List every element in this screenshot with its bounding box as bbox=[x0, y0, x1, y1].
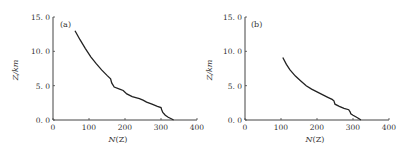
y-axis-label-a: Z/km bbox=[11, 59, 20, 81]
chart-a-axes: 01002003004000. 05. 010. 015. 0 bbox=[31, 13, 204, 132]
x-axis-label-a: N(Z) bbox=[108, 135, 128, 144]
chart-b-svg: 01002003004000. 05. 010. 015. 0 (b) Z/km… bbox=[204, 0, 408, 153]
y-tick-label: 0. 0 bbox=[36, 116, 51, 125]
x-tick-label: 400 bbox=[382, 123, 397, 132]
y-tick-label: 5. 0 bbox=[228, 82, 243, 91]
data-line-a bbox=[75, 31, 174, 120]
panel-label-b: (b) bbox=[251, 20, 262, 29]
x-tick-label: 300 bbox=[346, 123, 361, 132]
chart-b-axes: 01002003004000. 05. 010. 015. 0 bbox=[223, 13, 396, 132]
y-axis-label-b: Z/km bbox=[205, 59, 214, 81]
x-tick-label: 200 bbox=[118, 123, 133, 132]
x-tick-label: 200 bbox=[310, 123, 325, 132]
chart-panel-a: 01002003004000. 05. 010. 015. 0 (a) Z/km… bbox=[0, 0, 204, 153]
x-tick-label: 400 bbox=[190, 123, 204, 132]
x-tick-label: 0 bbox=[243, 123, 248, 132]
x-tick-label: 100 bbox=[274, 123, 289, 132]
y-tick-label: 15. 0 bbox=[31, 13, 50, 22]
y-tick-label: 15. 0 bbox=[223, 13, 242, 22]
x-axis-label-b: N(Z) bbox=[305, 135, 325, 144]
panel-label-a: (a) bbox=[60, 20, 71, 29]
data-line-b bbox=[283, 58, 361, 121]
x-tick-label: 100 bbox=[82, 123, 97, 132]
y-tick-label: 10. 0 bbox=[223, 47, 242, 56]
x-tick-label: 300 bbox=[154, 123, 169, 132]
x-tick-label: 0 bbox=[51, 123, 56, 132]
y-tick-label: 10. 0 bbox=[31, 47, 50, 56]
y-tick-label: 5. 0 bbox=[36, 82, 51, 91]
chart-panel-b: 01002003004000. 05. 010. 015. 0 (b) Z/km… bbox=[204, 0, 408, 153]
y-tick-label: 0. 0 bbox=[228, 116, 243, 125]
chart-a-svg: 01002003004000. 05. 010. 015. 0 (a) Z/km… bbox=[0, 0, 204, 153]
